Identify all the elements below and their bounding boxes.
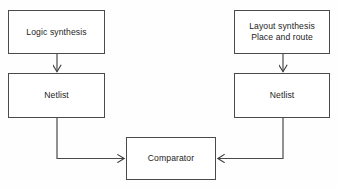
diagram-canvas: Logic synthesis Layout synthesis Place a… (0, 0, 338, 189)
node-layout-synthesis-label: Layout synthesis Place and route (249, 21, 315, 43)
node-logic-synthesis: Logic synthesis (8, 10, 105, 54)
edge-netlist-right-to-comparator (218, 118, 283, 159)
node-comparator-label: Comparator (148, 153, 194, 164)
node-netlist-left: Netlist (8, 73, 105, 118)
node-netlist-right-label: Netlist (270, 90, 295, 101)
node-logic-synthesis-label: Logic synthesis (26, 27, 86, 38)
node-netlist-right: Netlist (234, 73, 330, 118)
node-comparator: Comparator (126, 137, 216, 180)
node-layout-synthesis: Layout synthesis Place and route (234, 10, 330, 54)
node-netlist-left-label: Netlist (44, 90, 69, 101)
edge-netlist-left-to-comparator (57, 118, 124, 159)
